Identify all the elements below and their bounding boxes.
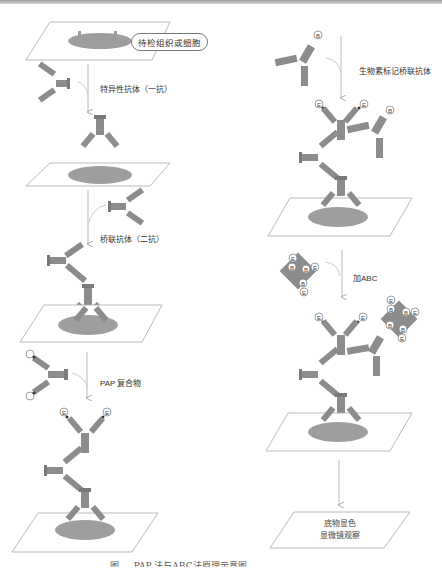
svg-text:E: E (317, 102, 321, 108)
svg-text:B: B (388, 108, 392, 114)
bridge-antibody-icon (108, 187, 144, 225)
biotin-bridge-antibody-icon: B (275, 31, 322, 86)
final-line-1: 底物显色 (300, 518, 380, 530)
svg-text:B: B (404, 310, 408, 316)
svg-text:B: B (388, 323, 392, 329)
svg-text:E: E (317, 315, 321, 321)
svg-text:B: B (316, 33, 320, 39)
svg-text:E: E (62, 410, 66, 416)
svg-text:E: E (389, 298, 393, 304)
svg-text:E: E (413, 310, 417, 316)
pap-complex-icon (26, 350, 68, 400)
label-add-abc: 加ABC (353, 272, 377, 283)
svg-text:E: E (400, 336, 404, 342)
abc-stack: E E E B B E B B E (266, 296, 419, 451)
svg-text:E: E (105, 410, 109, 416)
figure-caption: 图 … PAP 法与ABC法原理示意图 (110, 559, 247, 568)
svg-text:B: B (301, 281, 305, 287)
final-box-text: 底物显色 显微镜观察 (300, 518, 380, 542)
svg-text:B: B (290, 265, 294, 271)
slide-with-bridge (20, 242, 162, 342)
svg-text:E: E (361, 315, 365, 321)
svg-text:E: E (313, 265, 317, 271)
title-box-tissue: 待检组织或细胞 (131, 33, 208, 51)
svg-text:B: B (304, 267, 308, 273)
svg-text:E: E (291, 256, 295, 262)
pap-stack-on-slide: E E (12, 408, 158, 552)
label-pap-complex: PAP 复合物 (100, 377, 142, 388)
slide-with-primary (26, 115, 170, 186)
label-biotin-bridge: 生物素标记桥联抗体 (359, 65, 431, 76)
label-primary-antibody: 特异性抗体（一抗） (100, 83, 172, 94)
label-bridge-antibody: 桥联抗体（二抗） (100, 233, 164, 244)
diagram-canvas: E E B E E B (0, 0, 442, 568)
svg-text:E: E (362, 102, 366, 108)
primary-antibody-icon (38, 61, 70, 102)
svg-text:B: B (389, 307, 393, 313)
svg-text:B: B (401, 327, 405, 333)
final-line-2: 显微镜观察 (300, 530, 380, 542)
biotin-stack: E E B (268, 100, 412, 236)
abc-complex-icon: E B B E B E (280, 253, 319, 296)
svg-text:E: E (302, 290, 306, 296)
